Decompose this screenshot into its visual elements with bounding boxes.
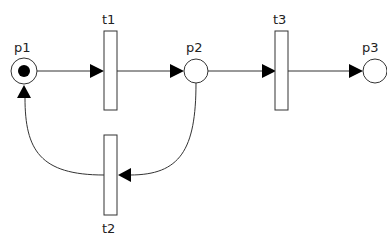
transition-label-t1: t1 bbox=[102, 12, 115, 27]
arc-t3-p3 bbox=[288, 64, 363, 78]
transition-label-t2: t2 bbox=[102, 221, 115, 236]
arc-t2-p1 bbox=[17, 85, 104, 175]
diagram-svg: p1 p2 p3 t1 t2 t3 bbox=[0, 0, 387, 247]
token-icon bbox=[18, 65, 30, 77]
place-label-p1: p1 bbox=[14, 40, 31, 55]
petri-net-diagram: p1 p2 p3 t1 t2 t3 bbox=[0, 0, 387, 247]
transition-label-t3: t3 bbox=[273, 12, 286, 27]
transition-t2[interactable]: t2 bbox=[102, 135, 117, 236]
arc-t1-p2 bbox=[117, 64, 184, 78]
place-p2[interactable]: p2 bbox=[184, 40, 208, 83]
arc-p1-t1 bbox=[37, 64, 104, 78]
place-label-p3: p3 bbox=[362, 40, 379, 55]
arc-p2-t3 bbox=[208, 64, 276, 78]
arc-p2-t2 bbox=[118, 83, 196, 182]
transition-t3[interactable]: t3 bbox=[273, 12, 288, 110]
transition-t1[interactable]: t1 bbox=[102, 12, 117, 110]
place-p3[interactable]: p3 bbox=[362, 40, 387, 83]
place-label-p2: p2 bbox=[186, 40, 203, 55]
place-p1[interactable]: p1 bbox=[11, 40, 37, 84]
